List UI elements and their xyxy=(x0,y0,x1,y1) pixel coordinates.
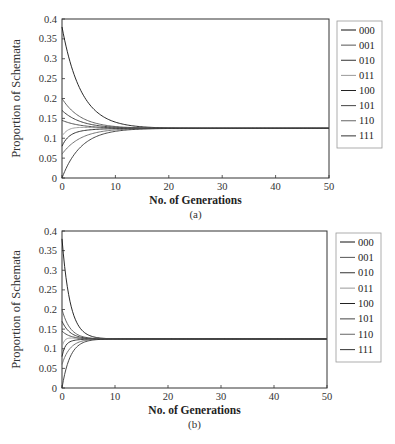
x-tick-label: 10 xyxy=(110,391,121,402)
legend-label: 101 xyxy=(359,100,375,111)
series-line-001 xyxy=(62,310,327,339)
y-tick-label: 0.2 xyxy=(44,93,57,104)
y-tick-label: 0.15 xyxy=(39,113,57,124)
series-line-010 xyxy=(62,110,329,128)
x-tick-label: 50 xyxy=(324,181,335,192)
y-tick-label: 0.35 xyxy=(39,245,57,256)
y-tick-label: 0.05 xyxy=(39,153,57,164)
legend-label: 111 xyxy=(359,130,374,141)
series-line-001 xyxy=(62,99,329,129)
x-tick-label: 30 xyxy=(216,391,227,402)
y-axis-title: Proportion of Schemata xyxy=(9,39,23,158)
x-axis-title: No. of Generations xyxy=(149,194,242,206)
x-tick-label: 10 xyxy=(110,181,121,192)
legend-label: 001 xyxy=(358,252,374,263)
series-line-110 xyxy=(62,339,327,365)
y-tick-label: 0.25 xyxy=(39,73,57,84)
series-line-111 xyxy=(62,128,329,178)
legend-label: 100 xyxy=(359,85,375,96)
legend-label: 000 xyxy=(359,25,375,36)
line-chart-a: 00.050.10.150.20.250.30.350.401020304050… xyxy=(0,0,395,222)
y-tick-label: 0.4 xyxy=(44,14,58,25)
plot-area-frame xyxy=(62,231,327,388)
y-tick-label: 0.2 xyxy=(44,304,57,315)
legend-label: 110 xyxy=(359,115,374,126)
plot-area-frame xyxy=(62,19,329,178)
x-tick-label: 20 xyxy=(163,391,174,402)
series-line-010 xyxy=(62,321,327,339)
y-tick-label: 0.25 xyxy=(39,284,57,295)
series-line-100 xyxy=(62,128,329,146)
legend-label: 011 xyxy=(359,70,374,81)
series-line-000 xyxy=(62,27,329,128)
line-chart-b: 00.050.10.150.20.250.30.350.401020304050… xyxy=(0,212,395,444)
series-line-110 xyxy=(62,128,329,154)
legend-label: 111 xyxy=(358,344,373,355)
x-tick-label: 50 xyxy=(322,391,333,402)
y-tick-label: 0.4 xyxy=(44,226,58,237)
series-line-000 xyxy=(62,239,327,339)
y-tick-label: 0 xyxy=(52,383,57,394)
x-tick-label: 0 xyxy=(59,391,64,402)
y-tick-label: 0.05 xyxy=(39,363,57,374)
y-tick-label: 0.3 xyxy=(44,53,57,64)
y-tick-label: 0.1 xyxy=(44,133,57,144)
legend-label: 110 xyxy=(358,329,373,340)
legend-label: 000 xyxy=(358,237,374,248)
y-axis-title: Proportion of Schemata xyxy=(9,250,23,369)
y-tick-label: 0.35 xyxy=(39,33,57,44)
legend-label: 100 xyxy=(358,298,374,309)
legend-label: 010 xyxy=(359,55,375,66)
x-tick-label: 40 xyxy=(270,181,281,192)
legend-label: 101 xyxy=(358,313,374,324)
x-tick-label: 30 xyxy=(217,181,228,192)
y-tick-label: 0 xyxy=(52,173,57,184)
panel-label: (b) xyxy=(188,418,201,431)
y-tick-label: 0.1 xyxy=(44,343,57,354)
y-tick-label: 0.15 xyxy=(39,324,57,335)
x-tick-label: 40 xyxy=(269,391,280,402)
y-tick-label: 0.3 xyxy=(44,265,57,276)
chart-panel-a: 00.050.10.150.20.250.30.350.401020304050… xyxy=(0,0,395,222)
legend-label: 001 xyxy=(359,40,375,51)
legend-label: 010 xyxy=(358,267,374,278)
series-line-100 xyxy=(62,339,327,357)
legend-label: 011 xyxy=(358,283,373,294)
x-axis-title: No. of Generations xyxy=(148,404,241,416)
series-line-111 xyxy=(62,339,327,388)
chart-panel-b: 00.050.10.150.20.250.30.350.401020304050… xyxy=(0,212,395,444)
x-tick-label: 0 xyxy=(59,181,64,192)
x-tick-label: 20 xyxy=(164,181,175,192)
